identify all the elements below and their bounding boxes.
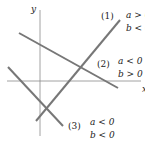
y-axis-label: y — [30, 4, 37, 14]
line-1-cond-b: b < 0 — [126, 23, 145, 33]
line-1-tag: (1) — [101, 11, 114, 21]
x-axis-label: x — [142, 84, 145, 94]
coordinate-diagram: y x (1) a > 0 b < 0 (2) a < 0 b > 0 (3) … — [0, 0, 145, 144]
line-2-cond-a: a < 0 — [118, 56, 143, 66]
line-1-cond-a: a > 0 — [126, 10, 145, 20]
line-1 — [36, 20, 120, 121]
line-3-tag: (3) — [68, 121, 81, 131]
line-3 — [8, 67, 63, 126]
line-2-cond-b: b > 0 — [118, 69, 143, 79]
line-3-cond-a: a < 0 — [90, 117, 115, 127]
line-3-cond-b: b < 0 — [90, 130, 115, 140]
line-2-tag: (2) — [97, 59, 110, 69]
